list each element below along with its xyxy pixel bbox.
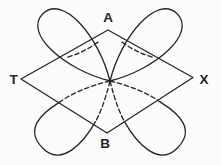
- orbital-lobes-diagram: A T X B: [0, 0, 221, 165]
- diagram-canvas: A T X B: [0, 0, 221, 165]
- vertex-label-top: A: [103, 10, 113, 25]
- vertex-label-bottom: B: [100, 136, 110, 151]
- center-point: [108, 79, 111, 82]
- vertex-label-left: T: [9, 72, 18, 87]
- vertex-label-right: X: [199, 72, 208, 87]
